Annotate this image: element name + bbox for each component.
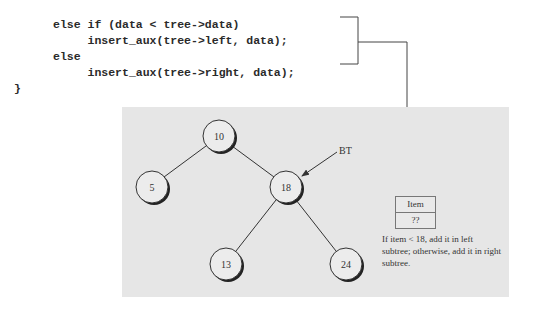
item-box: Item ?? xyxy=(395,196,436,229)
insertion-note: If item < 18, add it in left subtree; ot… xyxy=(382,233,502,269)
svg-text:10: 10 xyxy=(214,131,224,142)
svg-text:13: 13 xyxy=(221,259,231,270)
item-box-value: ?? xyxy=(396,213,435,228)
tree-edges xyxy=(164,146,336,251)
svg-text:18: 18 xyxy=(281,182,291,193)
item-box-header: Item xyxy=(396,197,435,213)
bt-arrow xyxy=(302,152,337,176)
tree-node-18: 18 xyxy=(270,171,304,205)
tree-node-13: 13 xyxy=(210,248,244,282)
svg-text:24: 24 xyxy=(341,259,351,270)
bracket-connector xyxy=(340,17,407,107)
tree-node-10: 10 xyxy=(203,120,237,154)
bt-label: BT xyxy=(339,145,352,156)
svg-text:5: 5 xyxy=(150,182,155,193)
tree-node-24: 24 xyxy=(330,248,364,282)
